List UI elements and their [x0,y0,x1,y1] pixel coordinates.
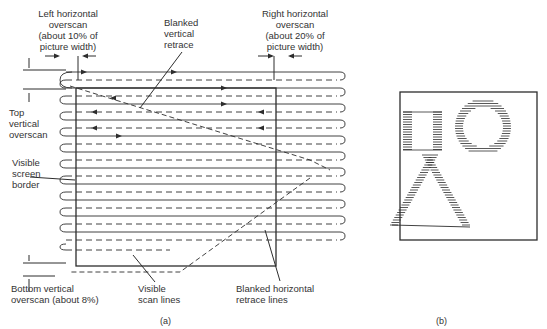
visible-scan-lines-label: Visible scan lines [138,283,180,305]
left-retrace-loop [60,128,66,136]
blanked-horizontal-retrace-label: Blanked horizontal retrace lines [236,283,314,305]
right-retrace-loop [340,168,345,176]
left-retrace-loop [60,224,66,232]
right-retrace-loop [340,88,345,96]
retrace-arrow [258,110,264,115]
left-retrace-loop [60,96,66,104]
right-retrace-loop [340,72,345,80]
caption-b: (b) [436,316,447,326]
left-retrace-loop [60,112,66,120]
bottom-left-loop [60,244,66,250]
right-retrace-loop [340,184,345,192]
left-retrace-loop [60,208,66,216]
scan-arrow [221,102,227,107]
scan-arrow [81,70,87,75]
dim-arrow-head [288,54,294,59]
left-overscan-label: Left horizontal overscan (about 10% of p… [28,8,108,52]
retrace-arrow [258,126,264,131]
screen-frame [400,92,537,240]
visible-scan-leader [133,255,155,282]
right-retrace-loop [340,104,345,112]
left-retrace-loop [60,176,66,184]
dim-arrow-head [268,54,274,59]
left-retrace-loop [60,192,66,200]
scan-arrow [171,70,177,75]
left-retrace-loop [60,160,66,168]
left-retrace-loop [60,144,66,152]
right-retrace-loop [340,120,345,128]
right-retrace-loop [340,136,345,144]
blanked-horizontal-leader [265,230,280,281]
right-retrace-loop [340,216,345,224]
visible-screen-border-label: Visible screen border [12,157,41,190]
top-vertical-overscan-label: Top vertical overscan [9,107,48,140]
retrace-arrow [91,110,97,115]
blanked-vertical-retrace-label: Blanked vertical retrace [164,17,198,50]
right-retrace-loop [340,200,345,208]
right-retrace-loop [340,232,345,240]
bottom-vertical-overscan-label: Bottom vertical overscan (about 8%) [11,283,99,305]
visible-screen-border [76,88,276,266]
caption-a: (a) [160,316,171,326]
right-overscan-label: Right horizontal overscan (about 20% of … [255,8,335,52]
dim-arrow-head [54,54,60,59]
dim-arrow-head [82,54,88,59]
triangle-base [392,225,470,227]
retrace-arrow [91,126,97,131]
right-retrace-loop [340,152,345,160]
scan-arrow [116,134,122,139]
